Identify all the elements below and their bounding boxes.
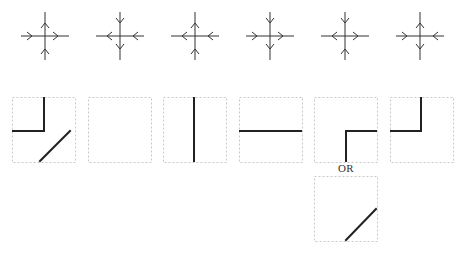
tile-border <box>89 98 152 163</box>
tile-grid <box>13 98 454 242</box>
tile-segment <box>346 209 376 240</box>
arrow-cross-2 <box>96 12 144 60</box>
arrow-cross-5 <box>321 12 369 60</box>
arrow-cross-6 <box>396 12 444 60</box>
tile-4 <box>240 98 303 163</box>
tile-5 <box>315 98 378 163</box>
diagram-canvas <box>0 0 469 253</box>
arrow-cross-1 <box>21 12 69 60</box>
tile-border <box>315 177 378 242</box>
tile-7 <box>315 177 378 242</box>
arrow-cross-4 <box>246 12 294 60</box>
tile-1 <box>13 98 76 163</box>
tile-segment <box>40 131 70 161</box>
tile-6 <box>391 98 454 163</box>
or-label: OR <box>338 162 354 174</box>
arrow-cross-3 <box>171 12 219 60</box>
arrow-crosses <box>21 12 444 60</box>
tile-3 <box>164 98 227 163</box>
tile-2 <box>89 98 152 163</box>
